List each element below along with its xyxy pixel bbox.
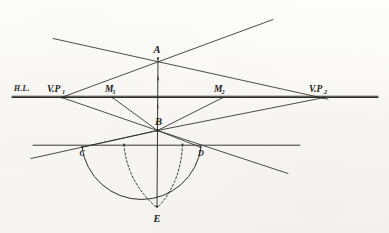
node-dot-right-chord xyxy=(182,144,184,146)
tick-upper xyxy=(158,77,159,80)
label-point-b: B xyxy=(154,116,162,127)
node-dot-left-chord xyxy=(123,144,125,146)
ray-m1-to-b xyxy=(113,98,158,131)
label-point-c: C xyxy=(80,149,86,158)
node-dot-c xyxy=(81,146,83,148)
ray-m2-to-b xyxy=(158,98,223,131)
ray-b-to-d xyxy=(158,131,201,148)
label-point-a: A xyxy=(153,44,161,55)
label-m1-subscript: 1 xyxy=(113,88,116,95)
node-dot-vp2 xyxy=(322,96,324,98)
label-vp1: V.P xyxy=(47,84,60,94)
perspective-construction-diagram: H.L. V.P 1 V.P 2 M 1 M 2 A B C D E xyxy=(0,0,389,233)
dashed-curve-left xyxy=(124,145,156,207)
node-dot-a xyxy=(157,57,159,59)
label-vp2-subscript: 2 xyxy=(323,88,327,95)
drawing-canvas: H.L. V.P 1 V.P 2 M 1 M 2 A B C D E xyxy=(0,0,389,233)
label-point-e: E xyxy=(153,213,161,224)
label-point-d: D xyxy=(197,149,204,158)
geometry-layer xyxy=(12,20,378,208)
ray-vp1-to-upper-right xyxy=(61,20,274,98)
node-dot-m2 xyxy=(221,96,223,98)
dashed-curve-right xyxy=(159,145,183,207)
node-dot-b xyxy=(156,129,159,132)
label-vp2: V.P xyxy=(309,84,322,94)
ray-b-to-c xyxy=(82,131,158,148)
node-dot-e xyxy=(156,205,158,207)
node-dot-vp1 xyxy=(61,96,63,98)
node-dot-d xyxy=(200,146,202,148)
ray-b-to-lower-right xyxy=(158,131,289,174)
label-horizon-line: H.L. xyxy=(13,84,30,93)
ray-vp2-to-b xyxy=(158,98,325,131)
ray-vp1-to-b xyxy=(62,98,158,131)
node-dot-m1 xyxy=(112,96,114,98)
label-vp1-subscript: 1 xyxy=(62,88,65,95)
ray-upper-left-to-vp2 xyxy=(53,39,328,100)
label-layer: H.L. V.P 1 V.P 2 M 1 M 2 A B C D E xyxy=(13,44,327,224)
tick-lower xyxy=(157,105,158,108)
label-m2-subscript: 2 xyxy=(221,88,225,95)
